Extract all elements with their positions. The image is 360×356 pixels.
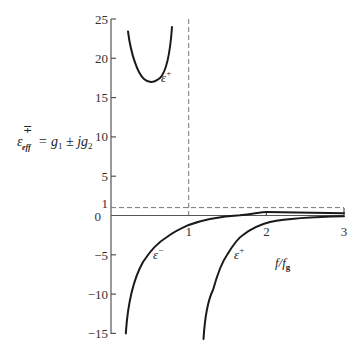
- y-axis-label: ε ∓ eff = g1 ± jg2: [17, 123, 93, 152]
- y-tick-label-1: 1: [102, 196, 109, 211]
- y-ticks: [111, 19, 116, 333]
- curve-eps-plus-lower: [204, 216, 345, 339]
- svg-text:eff: eff: [22, 143, 32, 152]
- label-eps-plus-lower: ε+: [234, 245, 244, 262]
- chart: 25 20 15 10 5 1 0 −5 −10 −15 1 2 3 ε+ ε−…: [0, 0, 360, 356]
- x-axis-label: f/fg: [275, 255, 291, 272]
- label-eps-minus: ε−: [153, 245, 163, 262]
- y-tick-label-5: 5: [102, 169, 109, 184]
- svg-text:∓: ∓: [23, 123, 32, 135]
- y-tick-label-10: 10: [95, 129, 108, 144]
- x-tick-label-3: 3: [341, 224, 348, 239]
- y-tick-label-25: 25: [95, 12, 108, 27]
- svg-text:= g1 ± jg2: = g1 ± jg2: [38, 134, 93, 151]
- y-tick-label-minus5: −5: [94, 248, 108, 263]
- y-tick-label-minus15: −15: [88, 326, 108, 341]
- label-eps-plus-upper: ε+: [161, 68, 171, 85]
- curve-eps-minus: [126, 212, 344, 333]
- y-tick-label-minus10: −10: [88, 287, 108, 302]
- y-tick-label-15: 15: [95, 90, 108, 105]
- y-tick-label-0: 0: [95, 209, 102, 224]
- y-tick-label-20: 20: [95, 51, 108, 66]
- x-tick-label-2: 2: [263, 224, 270, 239]
